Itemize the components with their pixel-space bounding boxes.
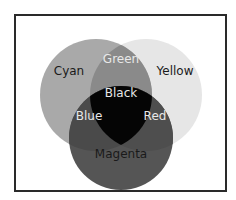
label-blue: Blue <box>76 109 103 123</box>
label-green: Green <box>103 52 139 66</box>
venn-diagram: Cyan Green Yellow Black Blue Red Magenta <box>0 0 236 200</box>
label-black: Black <box>105 86 138 100</box>
label-magenta: Magenta <box>95 147 147 161</box>
label-cyan: Cyan <box>54 64 84 78</box>
label-yellow: Yellow <box>156 64 194 78</box>
label-red: Red <box>144 109 167 123</box>
